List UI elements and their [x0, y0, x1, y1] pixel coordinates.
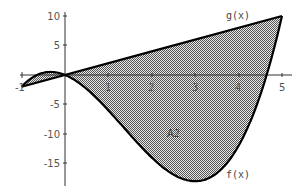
f-label: f(x) — [226, 169, 250, 180]
y-tick-5: 5 — [54, 40, 60, 51]
x-tick-1: 1 — [105, 82, 111, 93]
x-tick-2: 2 — [148, 82, 154, 93]
x-tick-3: 3 — [192, 82, 198, 93]
y-tick-minus-10: -10 — [44, 129, 60, 140]
y-tick-minus-15: -15 — [44, 158, 60, 169]
chart-svg: 1 2 3 4 5 -1 10 5 -5 -10 -15 g(x) f(x) A… — [0, 0, 304, 195]
g-label: g(x) — [226, 10, 250, 21]
x-tick-minus-1: -1 — [15, 82, 25, 93]
y-axis — [63, 12, 67, 186]
y-tick-minus-5: -5 — [50, 99, 60, 110]
x-tick-5: 5 — [279, 82, 285, 93]
x-tick-4: 4 — [235, 82, 241, 93]
area-label-a2: A2 — [167, 128, 180, 139]
y-tick-10: 10 — [47, 11, 60, 22]
chart-container: 1 2 3 4 5 -1 10 5 -5 -10 -15 g(x) f(x) A… — [0, 0, 304, 195]
